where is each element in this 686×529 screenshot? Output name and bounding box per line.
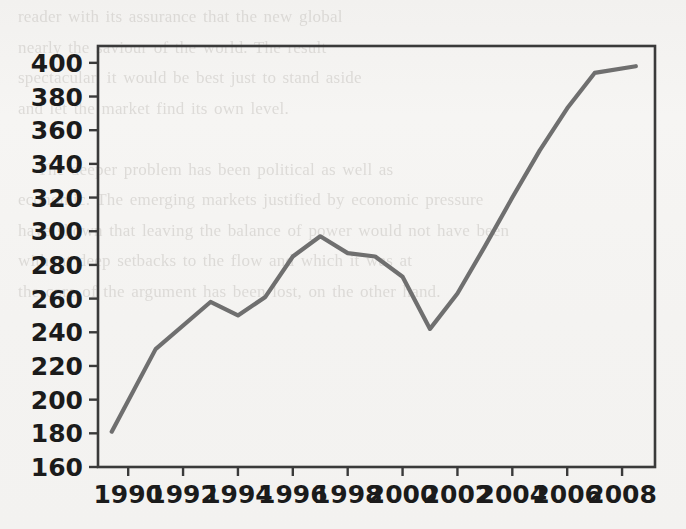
y-axis-tick-label: 380 (31, 83, 83, 112)
y-axis-tick-label: 200 (31, 386, 83, 415)
y-axis-tick-label: 320 (31, 184, 83, 213)
y-axis-tick-label: 260 (31, 285, 83, 314)
x-axis-tick-label: 2008 (587, 480, 657, 509)
y-axis-tick-label: 360 (31, 116, 83, 145)
y-axis-tick-label: 300 (31, 217, 83, 246)
chart-canvas: 1601802002202402602803003203403603804001… (0, 0, 686, 529)
data-series-line (112, 66, 636, 431)
y-axis-tick-label: 280 (31, 251, 83, 280)
y-axis-tick-label: 240 (31, 318, 83, 347)
y-axis-tick-label: 180 (31, 419, 83, 448)
y-axis-tick-label: 220 (31, 352, 83, 381)
line-chart-figure: 1601802002202402602803003203403603804001… (0, 0, 686, 529)
y-axis-tick-label: 400 (31, 49, 83, 78)
y-axis-tick-label: 340 (31, 150, 83, 179)
y-axis-tick-label: 160 (31, 453, 83, 482)
